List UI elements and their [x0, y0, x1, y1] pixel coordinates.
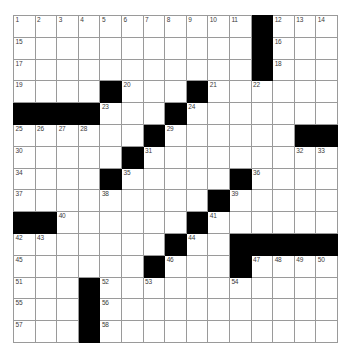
crossword-cell[interactable]	[78, 37, 100, 59]
crossword-cell[interactable]	[294, 190, 316, 212]
crossword-cell[interactable]: 13	[294, 16, 316, 38]
crossword-cell[interactable]: 15	[14, 37, 36, 59]
crossword-cell[interactable]	[229, 321, 251, 343]
crossword-cell[interactable]: 11	[229, 16, 251, 38]
crossword-cell[interactable]	[186, 321, 208, 343]
crossword-cell[interactable]	[165, 146, 187, 168]
crossword-cell[interactable]: 1	[14, 16, 36, 38]
crossword-cell[interactable]	[143, 37, 165, 59]
crossword-cell[interactable]	[121, 255, 143, 277]
crossword-cell[interactable]: 23	[100, 103, 122, 125]
crossword-cell[interactable]	[229, 124, 251, 146]
crossword-cell[interactable]: 54	[229, 277, 251, 299]
crossword-cell[interactable]	[121, 37, 143, 59]
crossword-cell[interactable]	[143, 168, 165, 190]
crossword-cell[interactable]	[208, 146, 230, 168]
crossword-cell[interactable]	[208, 233, 230, 255]
crossword-cell[interactable]	[251, 124, 273, 146]
crossword-cell[interactable]	[208, 168, 230, 190]
crossword-cell[interactable]	[208, 277, 230, 299]
crossword-cell[interactable]: 45	[14, 255, 36, 277]
crossword-cell[interactable]	[165, 277, 187, 299]
crossword-cell[interactable]: 44	[186, 233, 208, 255]
crossword-cell[interactable]	[143, 212, 165, 234]
crossword-cell[interactable]	[316, 37, 338, 59]
crossword-cell[interactable]	[208, 59, 230, 81]
crossword-cell[interactable]: 53	[143, 277, 165, 299]
crossword-cell[interactable]	[35, 59, 57, 81]
crossword-cell[interactable]	[208, 124, 230, 146]
crossword-cell[interactable]: 27	[57, 124, 79, 146]
crossword-cell[interactable]	[78, 212, 100, 234]
crossword-cell[interactable]	[316, 103, 338, 125]
crossword-cell[interactable]	[294, 277, 316, 299]
crossword-cell[interactable]	[251, 212, 273, 234]
crossword-cell[interactable]	[121, 277, 143, 299]
crossword-cell[interactable]	[143, 59, 165, 81]
crossword-cell[interactable]	[121, 124, 143, 146]
crossword-cell[interactable]	[57, 190, 79, 212]
crossword-cell[interactable]: 16	[273, 37, 295, 59]
crossword-cell[interactable]	[100, 233, 122, 255]
crossword-cell[interactable]: 47	[251, 255, 273, 277]
crossword-cell[interactable]	[100, 124, 122, 146]
crossword-cell[interactable]	[35, 299, 57, 321]
crossword-cell[interactable]	[121, 103, 143, 125]
crossword-cell[interactable]: 9	[186, 16, 208, 38]
crossword-cell[interactable]	[273, 277, 295, 299]
crossword-cell[interactable]	[121, 59, 143, 81]
crossword-cell[interactable]	[165, 212, 187, 234]
crossword-cell[interactable]: 26	[35, 124, 57, 146]
crossword-cell[interactable]	[35, 190, 57, 212]
crossword-cell[interactable]	[165, 168, 187, 190]
crossword-cell[interactable]	[57, 277, 79, 299]
crossword-cell[interactable]	[208, 103, 230, 125]
crossword-cell[interactable]: 33	[316, 146, 338, 168]
crossword-cell[interactable]	[165, 81, 187, 103]
crossword-cell[interactable]	[78, 146, 100, 168]
crossword-cell[interactable]: 28	[78, 124, 100, 146]
crossword-cell[interactable]: 24	[186, 103, 208, 125]
crossword-cell[interactable]	[78, 190, 100, 212]
crossword-cell[interactable]	[186, 190, 208, 212]
crossword-cell[interactable]	[143, 233, 165, 255]
crossword-cell[interactable]	[294, 212, 316, 234]
crossword-cell[interactable]	[143, 81, 165, 103]
crossword-cell[interactable]	[57, 321, 79, 343]
crossword-cell[interactable]	[35, 146, 57, 168]
crossword-cell[interactable]: 7	[143, 16, 165, 38]
crossword-cell[interactable]	[186, 168, 208, 190]
crossword-cell[interactable]	[316, 277, 338, 299]
crossword-cell[interactable]	[229, 146, 251, 168]
crossword-cell[interactable]	[294, 59, 316, 81]
crossword-cell[interactable]: 29	[165, 124, 187, 146]
crossword-cell[interactable]	[208, 321, 230, 343]
crossword-cell[interactable]: 56	[100, 299, 122, 321]
crossword-cell[interactable]	[229, 59, 251, 81]
crossword-cell[interactable]	[186, 37, 208, 59]
crossword-cell[interactable]	[316, 299, 338, 321]
crossword-cell[interactable]	[251, 190, 273, 212]
crossword-cell[interactable]: 52	[100, 277, 122, 299]
crossword-cell[interactable]: 39	[229, 190, 251, 212]
crossword-cell[interactable]	[229, 81, 251, 103]
crossword-cell[interactable]: 31	[143, 146, 165, 168]
crossword-cell[interactable]	[273, 212, 295, 234]
crossword-cell[interactable]	[78, 233, 100, 255]
crossword-cell[interactable]	[251, 103, 273, 125]
crossword-cell[interactable]	[294, 103, 316, 125]
crossword-cell[interactable]	[208, 299, 230, 321]
crossword-cell[interactable]	[57, 81, 79, 103]
crossword-cell[interactable]: 36	[251, 168, 273, 190]
crossword-cell[interactable]: 41	[208, 212, 230, 234]
crossword-cell[interactable]	[57, 146, 79, 168]
crossword-cell[interactable]	[229, 299, 251, 321]
crossword-cell[interactable]: 48	[273, 255, 295, 277]
crossword-cell[interactable]	[78, 59, 100, 81]
crossword-cell[interactable]	[273, 299, 295, 321]
crossword-cell[interactable]	[143, 190, 165, 212]
crossword-cell[interactable]	[273, 103, 295, 125]
crossword-cell[interactable]: 57	[14, 321, 36, 343]
crossword-cell[interactable]	[316, 190, 338, 212]
crossword-cell[interactable]: 14	[316, 16, 338, 38]
